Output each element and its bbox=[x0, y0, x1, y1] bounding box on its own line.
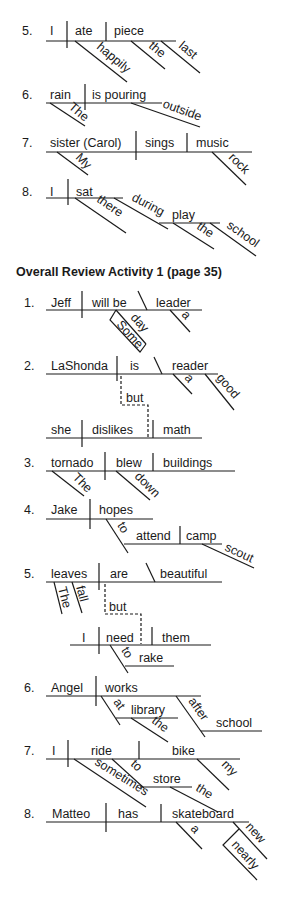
modifier: school bbox=[224, 218, 262, 250]
verb: works bbox=[104, 681, 138, 695]
subject: Matteo bbox=[52, 807, 90, 821]
diagram-review-5: 5. leaves are beautiful The fall but I n… bbox=[24, 563, 222, 673]
subject: Jeff bbox=[51, 296, 71, 310]
preposition: to bbox=[114, 520, 131, 536]
item-number: 7. bbox=[22, 136, 32, 150]
verb: sat bbox=[76, 185, 93, 199]
subject: leaves bbox=[51, 567, 87, 581]
modifier: during bbox=[130, 190, 167, 219]
modifier: last bbox=[176, 39, 200, 63]
item-number: 5. bbox=[24, 567, 34, 581]
modifier: outside bbox=[161, 97, 204, 124]
modifier: My bbox=[73, 150, 95, 172]
verb: blew bbox=[116, 456, 143, 470]
diagram-review-6: 6. Angel works at library the after scho… bbox=[24, 676, 262, 742]
verb: has bbox=[118, 807, 138, 821]
subject: rain bbox=[50, 88, 71, 102]
modifier: the bbox=[193, 781, 215, 802]
complement: reader bbox=[172, 359, 208, 373]
verb: will be bbox=[91, 296, 127, 310]
item-number: 8. bbox=[24, 807, 34, 821]
modifier: a bbox=[182, 371, 197, 385]
subject: she bbox=[51, 423, 71, 437]
modifier: a bbox=[188, 822, 203, 837]
complement: leader bbox=[156, 296, 191, 310]
item-number: 7. bbox=[24, 744, 34, 758]
subject: tornado bbox=[51, 456, 93, 470]
sentence-diagrams: 5. I ate piece happily the last 6. rain … bbox=[0, 0, 287, 901]
verb: hopes bbox=[99, 503, 133, 517]
section-heading: Overall Review Activity 1 (page 35) bbox=[16, 265, 222, 279]
item-number: 8. bbox=[22, 185, 32, 199]
diagram-review-3: 3. tornado blew buildings The down bbox=[24, 452, 235, 500]
preposition: after bbox=[186, 695, 212, 724]
object: school bbox=[216, 716, 252, 730]
verb: dislikes bbox=[92, 423, 133, 437]
item-number: 6. bbox=[24, 681, 34, 695]
subject: LaShonda bbox=[51, 359, 108, 373]
modifier: The bbox=[70, 470, 95, 495]
diagram-prior-7: 7. sister (Carol) sings music My rock bbox=[22, 131, 253, 185]
diagram-review-1: 1. Jeff will be leader day Some a bbox=[24, 291, 202, 352]
item-number: 5. bbox=[22, 24, 32, 38]
conjunction: but bbox=[109, 600, 127, 614]
subject: Angel bbox=[51, 681, 83, 695]
verb: is bbox=[130, 359, 139, 373]
modifier: good bbox=[214, 371, 243, 401]
item-number: 2. bbox=[24, 359, 34, 373]
object: piece bbox=[114, 24, 144, 38]
diagram-review-8: 8. Matteo has skateboard a new nearly bbox=[24, 803, 269, 880]
subject: I bbox=[50, 185, 53, 199]
modifier: the bbox=[146, 39, 168, 61]
object: play bbox=[172, 208, 196, 222]
object: music bbox=[196, 136, 229, 150]
modifier: fall bbox=[73, 584, 91, 603]
item-number: 4. bbox=[24, 503, 34, 517]
verb: need bbox=[106, 631, 134, 645]
item-number: 3. bbox=[24, 456, 34, 470]
subject: I bbox=[52, 744, 55, 758]
verb: is pouring bbox=[92, 88, 146, 102]
subject: I bbox=[50, 24, 53, 38]
subject: sister (Carol) bbox=[50, 136, 122, 150]
modifier: new bbox=[243, 820, 269, 847]
verb: attend bbox=[136, 529, 171, 543]
complement: beautiful bbox=[160, 567, 207, 581]
diagram-review-2: 2. LaShonda is reader a good but she dis… bbox=[24, 356, 242, 447]
verb: are bbox=[110, 567, 128, 581]
subject: Jake bbox=[51, 503, 77, 517]
item-number: 6. bbox=[22, 88, 32, 102]
object: buildings bbox=[163, 456, 212, 470]
object: skateboard bbox=[172, 807, 234, 821]
conjunction: but bbox=[126, 391, 144, 405]
verb: rake bbox=[139, 651, 163, 665]
object: them bbox=[162, 631, 190, 645]
diagram-prior-5: 5. I ate piece happily the last bbox=[22, 21, 200, 82]
diagram-prior-6: 6. rain is pouring The outside bbox=[22, 84, 204, 127]
object: store bbox=[153, 772, 181, 786]
diagram-review-7: 7. I ride bike sometimes to store the my bbox=[24, 740, 241, 812]
preposition: to bbox=[118, 645, 135, 661]
diagram-prior-8: 8. I sat there during play the school bbox=[22, 179, 262, 256]
modifier: there bbox=[94, 192, 125, 220]
object: bike bbox=[172, 744, 195, 758]
modifier: The bbox=[55, 585, 74, 609]
modifier: happily bbox=[94, 40, 134, 77]
verb: ate bbox=[75, 24, 92, 38]
modifier: rock bbox=[226, 150, 253, 177]
modifier: the bbox=[194, 219, 216, 240]
object: math bbox=[163, 423, 191, 437]
diagram-review-4: 4. Jake hopes to attend camp scout bbox=[24, 499, 256, 568]
verb: sings bbox=[145, 136, 174, 150]
object: camp bbox=[186, 529, 217, 543]
item-number: 1. bbox=[24, 296, 34, 310]
modifier: down bbox=[132, 469, 163, 500]
modifier: my bbox=[219, 757, 241, 779]
preposition: at bbox=[111, 696, 129, 713]
subject: I bbox=[82, 631, 85, 645]
